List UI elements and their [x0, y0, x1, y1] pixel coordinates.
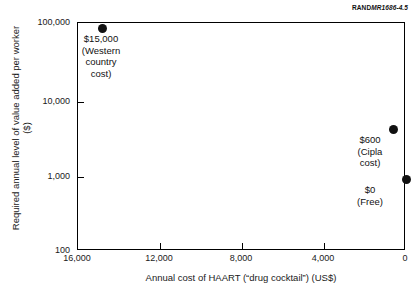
annotation-line: country: [61, 56, 141, 68]
data-point-cipla-cost[interactable]: [389, 125, 398, 134]
annotation-line: $600: [340, 134, 400, 146]
annotation-line: (Free): [340, 196, 400, 208]
y-axis-title: Required annual level of value added per…: [10, 23, 32, 233]
data-point-free[interactable]: [402, 175, 411, 184]
figure-container: RANDMR1686-4.5 100,000 10,000 1,000 100 …: [0, 0, 419, 293]
annotation-western-country-cost: $15,000 (Western country cost): [61, 33, 141, 79]
x-tick-label-12000: 12,000: [124, 254, 194, 263]
y-axis-tick-1000: [78, 177, 84, 178]
annotation-free: $0 (Free): [340, 184, 400, 207]
rand-logo-text: RAND: [352, 4, 371, 11]
annotation-line: cost): [340, 157, 400, 169]
x-tick-label-4000: 4,000: [288, 254, 358, 263]
x-axis-title: Annual cost of HAART (“drug cocktail”) (…: [77, 272, 405, 283]
x-axis-tick-12000: [160, 243, 161, 249]
data-point-western-country-cost[interactable]: [98, 24, 107, 33]
annotation-cipla-cost: $600 (Cipla cost): [340, 134, 400, 169]
annotation-line: cost): [61, 68, 141, 80]
y-axis-tick-10000: [78, 102, 84, 103]
x-tick-label-0: 0: [370, 254, 419, 263]
rand-figure-identifier: RANDMR1686-4.5: [352, 4, 408, 11]
annotation-line: (Cipla: [340, 146, 400, 158]
annotation-line: (Western: [61, 45, 141, 57]
x-tick-label-16000: 16,000: [42, 254, 112, 263]
x-axis-tick-4000: [324, 243, 325, 249]
annotation-line: $15,000: [61, 33, 141, 45]
x-axis-tick-8000: [242, 243, 243, 249]
rand-figure-number: MR1686-4.5: [371, 4, 408, 11]
annotation-line: $0: [340, 184, 400, 196]
x-tick-label-8000: 8,000: [206, 254, 276, 263]
